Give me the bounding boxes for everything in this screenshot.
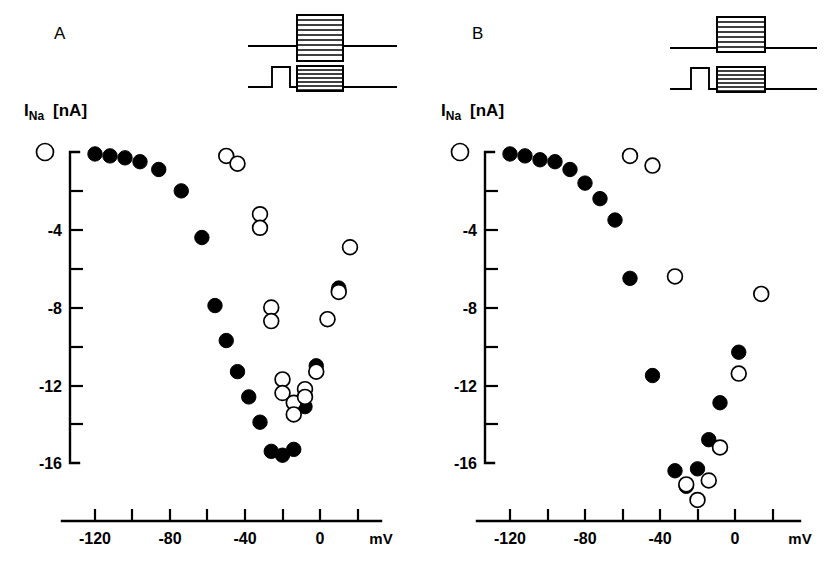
data-point-open	[754, 286, 769, 301]
protocol-diagram-b	[670, 17, 817, 92]
data-point-filled	[608, 213, 622, 227]
data-point-filled	[533, 153, 547, 167]
data-point-filled	[174, 184, 188, 198]
data-point-open	[713, 440, 728, 455]
data-point-open	[253, 220, 268, 235]
x-tick-label--80: -80	[158, 530, 181, 547]
data-point-filled	[230, 364, 244, 378]
data-point-open	[253, 207, 268, 222]
panel-a-data-points	[88, 147, 358, 463]
data-point-filled	[242, 390, 256, 404]
data-point-filled	[732, 345, 746, 359]
y-axis-zero-circle	[452, 144, 469, 161]
panel-b-canvas: -4 -8 -12 -16 -120 -80 -40 0 mV	[417, 0, 834, 576]
data-point-filled	[118, 151, 132, 165]
data-point-open	[298, 390, 313, 405]
protocol-diagram-a	[248, 15, 397, 91]
data-point-filled	[593, 191, 607, 205]
protocol-a-bottom-hatch	[298, 70, 342, 90]
data-point-open	[731, 366, 746, 381]
panel-b-x-axis: -120 -80 -40 0 mV	[477, 509, 812, 547]
panel-a-canvas: -4 -8 -12 -16 -120 -80 -40 0 mV	[0, 0, 417, 576]
panel-b: B INa[nA]	[417, 0, 834, 576]
data-point-filled	[690, 462, 704, 476]
data-point-filled	[578, 176, 592, 190]
data-point-filled	[518, 149, 532, 163]
data-point-filled	[208, 298, 222, 312]
data-point-filled	[152, 162, 166, 176]
x-tick-label-0: 0	[731, 530, 740, 547]
panel-b-data-points	[503, 147, 769, 508]
x-tick-label--40: -40	[648, 530, 671, 547]
data-point-filled	[103, 149, 117, 163]
data-point-filled	[645, 368, 659, 382]
data-point-filled	[88, 147, 102, 161]
protocol-a-top-test-pulse-box	[297, 15, 343, 61]
data-point-open	[690, 493, 705, 508]
y-tick-label--16: -16	[454, 455, 477, 472]
panel-a: A INa[nA]	[0, 0, 417, 576]
data-point-open	[264, 314, 279, 329]
y-tick-label--12: -12	[454, 378, 477, 395]
data-point-open	[331, 285, 346, 300]
x-tick-label--120: -120	[494, 530, 526, 547]
y-tick-label--4: -4	[463, 222, 477, 239]
x-axis-unit-label: mV	[788, 530, 811, 547]
protocol-b-bottom-hatch	[718, 71, 764, 91]
data-point-open	[264, 300, 279, 315]
y-tick-label--8: -8	[48, 300, 62, 317]
data-point-open	[343, 240, 358, 255]
data-point-filled	[623, 271, 637, 285]
panel-b-y-axis: -4 -8 -12 -16	[452, 144, 499, 473]
data-point-filled	[287, 442, 301, 456]
data-point-open	[668, 269, 683, 284]
panel-a-y-axis: -4 -8 -12 -16	[37, 144, 84, 473]
figure-root: A INa[nA]	[0, 0, 834, 576]
data-point-open	[679, 477, 694, 492]
y-axis-zero-circle	[37, 144, 54, 161]
data-point-open	[623, 148, 638, 163]
panel-a-x-axis: -120 -80 -40 0 mV	[62, 509, 393, 547]
x-tick-label--120: -120	[79, 530, 111, 547]
protocol-a-top-hatch	[298, 20, 342, 55]
x-tick-label--80: -80	[573, 530, 596, 547]
data-point-open	[286, 407, 301, 422]
data-point-filled	[668, 464, 682, 478]
data-point-open	[275, 372, 290, 387]
data-point-filled	[253, 415, 267, 429]
x-tick-label-0: 0	[316, 530, 325, 547]
data-point-open	[701, 473, 716, 488]
data-point-filled	[563, 162, 577, 176]
x-axis-unit-label: mV	[369, 530, 392, 547]
x-tick-label--40: -40	[233, 530, 256, 547]
data-point-open	[645, 158, 660, 173]
data-point-filled	[548, 155, 562, 169]
y-tick-label--8: -8	[463, 300, 477, 317]
data-point-filled	[219, 333, 233, 347]
data-point-filled	[195, 230, 209, 244]
data-point-open	[309, 364, 324, 379]
data-point-filled	[503, 147, 517, 161]
data-point-filled	[713, 396, 727, 410]
y-tick-label--12: -12	[39, 378, 62, 395]
protocol-b-top-hatch	[718, 22, 764, 47]
data-point-open	[320, 312, 335, 327]
data-point-filled	[133, 155, 147, 169]
y-tick-label--4: -4	[48, 222, 62, 239]
data-point-open	[230, 156, 245, 171]
y-tick-label--16: -16	[39, 455, 62, 472]
